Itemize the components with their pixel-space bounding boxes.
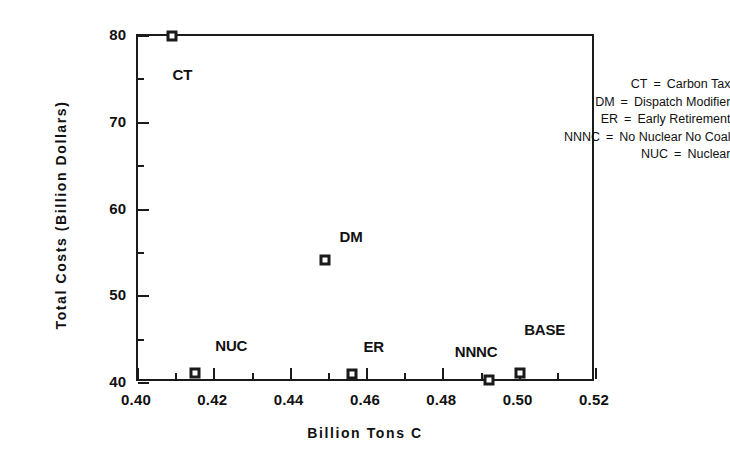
y-axis-tick-label: 60 <box>90 199 126 216</box>
data-point-marker <box>190 367 201 378</box>
y-axis-minor-tick <box>138 252 144 254</box>
data-point-marker <box>514 367 525 378</box>
legend-entry-value: Carbon Tax <box>667 76 730 94</box>
y-axis-title: Total Costs (Billion Dollars) <box>53 45 69 385</box>
data-point-marker <box>346 369 357 380</box>
legend-entry-key: NNNC <box>558 129 600 147</box>
x-axis-major-tick <box>213 368 215 379</box>
x-axis-tick-label: 0.50 <box>503 391 533 408</box>
x-axis-major-tick <box>442 368 444 379</box>
legend-entry-equals: = <box>618 111 637 129</box>
legend-entry-equals: = <box>668 146 687 164</box>
data-point-marker <box>484 375 495 386</box>
x-axis-title: Billion Tons C <box>136 425 594 441</box>
x-axis-tick-label: 0.42 <box>197 391 227 408</box>
legend-entry-value: Early Retirement <box>637 111 730 129</box>
x-axis-tick-label: 0.48 <box>426 391 456 408</box>
data-point-label: DM <box>340 227 363 244</box>
y-axis-major-tick <box>138 35 149 37</box>
data-point-label: ER <box>364 338 384 355</box>
y-axis-minor-tick <box>138 78 144 80</box>
legend-entry-equals: = <box>600 129 619 147</box>
legend-entry-key: CT <box>605 76 647 94</box>
x-axis-tick-label: 0.46 <box>350 391 380 408</box>
y-axis-major-tick <box>138 295 149 297</box>
x-axis-tick-label: 0.52 <box>579 391 609 408</box>
x-axis-major-tick <box>595 368 597 379</box>
x-axis-major-tick <box>290 368 292 379</box>
x-axis-minor-tick <box>252 373 254 379</box>
x-axis-minor-tick <box>328 373 330 379</box>
x-axis-tick-label: 0.40 <box>121 391 151 408</box>
legend-entry-value: No Nuclear No Coal <box>619 129 730 147</box>
legend-entry: ER=Early Retirement <box>558 111 730 129</box>
x-axis-minor-tick <box>557 373 559 379</box>
x-axis-minor-tick <box>481 373 483 379</box>
y-axis-tick-label: 40 <box>90 373 126 390</box>
y-axis-minor-tick <box>138 339 144 341</box>
y-axis-major-tick <box>138 382 149 384</box>
data-point-label: CT <box>173 66 193 83</box>
legend-entry: CT=Carbon Tax <box>558 76 730 94</box>
data-point-marker <box>320 254 331 265</box>
x-axis-major-tick <box>137 368 139 379</box>
legend-entry-equals: = <box>615 94 634 112</box>
legend-entry: DM=Dispatch Modifier <box>558 94 730 112</box>
y-axis-minor-tick <box>138 165 144 167</box>
legend-entry-key: ER <box>576 111 618 129</box>
y-axis-tick-label: 70 <box>90 112 126 129</box>
legend-entry-key: DM <box>573 94 615 112</box>
y-axis-major-tick <box>138 122 149 124</box>
y-axis-tick-label: 80 <box>90 26 126 43</box>
x-axis-tick-label: 0.44 <box>274 391 304 408</box>
data-point-marker <box>167 31 178 42</box>
data-point-label: BASE <box>524 320 565 337</box>
data-point-label: NNNC <box>455 343 498 360</box>
legend-entry: NUC=Nuclear <box>558 146 730 164</box>
data-point-label: NUC <box>215 336 247 353</box>
legend-entry: NNNC=No Nuclear No Coal <box>558 129 730 147</box>
x-axis-minor-tick <box>175 373 177 379</box>
y-axis-major-tick <box>138 209 149 211</box>
x-axis-minor-tick <box>404 373 406 379</box>
plot-area: CTDMNUCERNNNCBASE CT=Carbon TaxDM=Dispat… <box>136 34 594 381</box>
y-axis-tick-label: 50 <box>90 286 126 303</box>
x-axis-major-tick <box>366 368 368 379</box>
legend-entry-key: NUC <box>626 146 668 164</box>
legend-entry-value: Nuclear <box>687 146 730 164</box>
legend-entry-equals: = <box>647 76 666 94</box>
legend: CT=Carbon TaxDM=Dispatch ModifierER=Earl… <box>558 76 730 164</box>
legend-entry-value: Dispatch Modifier <box>634 94 730 112</box>
